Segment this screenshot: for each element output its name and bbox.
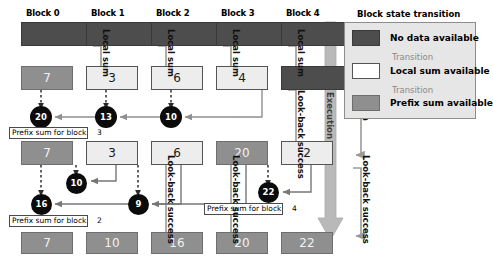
legend-transition-label-2: Transition: [392, 86, 433, 95]
caption-prefix-block3-number: 3: [97, 129, 102, 137]
block-title-3: Block 3: [221, 8, 254, 18]
legend-label-prefix-sum: Prefix sum available: [390, 99, 493, 108]
state-box-r4-b0[interactable]: 7: [21, 232, 73, 254]
legend-transition-label-1: Transition: [392, 53, 433, 62]
edge-label-local-sum-1: Local sum: [167, 29, 176, 77]
legend-label-local-sum: Local sum available: [390, 67, 490, 76]
edge-label-lookback-success-3: Look-back success: [297, 90, 306, 179]
edge-label-local-sum-2: Local sum: [232, 29, 241, 77]
state-box-r4-b1[interactable]: 10: [86, 232, 138, 254]
caption-prefix-block2: Prefix sum for block: [9, 215, 88, 227]
accumulator-circle-16[interactable]: 16: [31, 194, 52, 215]
legend-swatch-local-sum: [352, 63, 380, 79]
state-box-r2-b1[interactable]: 3: [86, 66, 138, 90]
legend-label-no-data: No data available: [390, 34, 479, 43]
block-title-0: Block 0: [26, 8, 59, 18]
state-box-r4-b2[interactable]: 16: [151, 232, 203, 254]
legend-title: Block state transition: [357, 9, 460, 19]
state-box-r2-b3[interactable]: 4: [216, 66, 268, 90]
state-box-r2-b2[interactable]: 6: [151, 66, 203, 90]
caption-prefix-block2-number: 2: [97, 217, 102, 225]
state-box-r4-b3[interactable]: 20: [216, 232, 268, 254]
edge-label-lookback-success-4: Look-back success: [362, 155, 371, 244]
block-title-1: Block 1: [91, 8, 124, 18]
edge-label-lookback-success-1: Look-back success: [167, 155, 176, 244]
edge-label-execution: Execution: [326, 92, 335, 139]
caption-prefix-block4: Prefix sum for block: [204, 203, 283, 215]
block-title-2: Block 2: [156, 8, 189, 18]
state-box-r1-b2[interactable]: [151, 22, 223, 46]
legend-swatch-prefix-sum: [352, 95, 380, 111]
state-box-r3-b2[interactable]: 6: [151, 141, 203, 165]
accumulator-circle-10-upper[interactable]: 10: [160, 106, 182, 128]
accumulator-circle-22[interactable]: 22: [258, 182, 279, 203]
block-title-4: Block 4: [286, 8, 319, 18]
state-box-r3-b0[interactable]: 7: [21, 141, 73, 165]
state-box-r3-b3[interactable]: 20: [216, 141, 268, 165]
edge-label-local-sum-3: Local sum: [297, 29, 306, 77]
state-box-r3-b4[interactable]: 2: [281, 141, 333, 165]
state-box-r2-b0[interactable]: 7: [21, 66, 73, 90]
state-box-r1-b0[interactable]: [21, 22, 93, 46]
edge-label-lookback-success-2: Look-back success: [232, 155, 241, 244]
caption-prefix-block4-number: 4: [292, 205, 297, 213]
state-box-r2-b4[interactable]: [281, 66, 353, 90]
accumulator-circle-10-lower[interactable]: 10: [66, 173, 87, 194]
state-box-r3-b1[interactable]: 3: [86, 141, 138, 165]
state-box-r1-b3[interactable]: [216, 22, 288, 46]
edge-label-local-sum-0: Local sum: [102, 29, 111, 77]
accumulator-circle-20[interactable]: 20: [30, 106, 52, 128]
caption-prefix-block3: Prefix sum for block: [9, 127, 88, 139]
state-box-r1-b1[interactable]: [86, 22, 158, 46]
state-box-r4-b4[interactable]: 22: [281, 232, 333, 254]
accumulator-circle-13[interactable]: 13: [95, 106, 117, 128]
state-box-r1-b4[interactable]: [281, 22, 353, 46]
accumulator-circle-9[interactable]: 9: [128, 194, 149, 215]
legend-swatch-no-data: [352, 30, 380, 46]
